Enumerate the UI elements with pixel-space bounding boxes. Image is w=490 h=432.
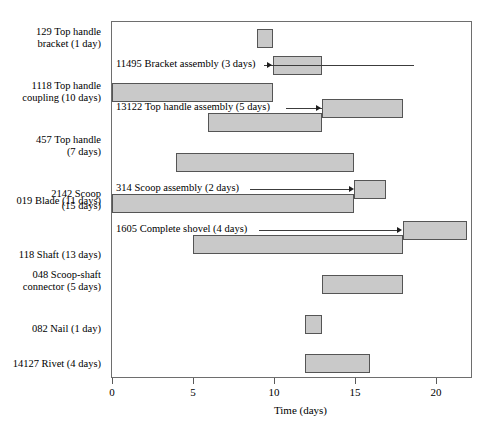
x-axis-title-text: Time (days) — [274, 404, 327, 416]
bar-1605-complete-shovel — [403, 221, 468, 240]
task-label-118: 118 Shaft (13 days) — [0, 249, 106, 261]
task-label-457: 457 Top handle (7 days) — [0, 134, 106, 159]
bar-118-shaft — [193, 235, 403, 254]
xtick-20 — [436, 378, 437, 384]
bar-13122-top-handle-assembly — [322, 99, 403, 118]
annotation-11495-text: 11495 Bracket assembly (3 days) — [116, 58, 256, 70]
xtick-10 — [274, 378, 275, 384]
bar-048-scoop-shaft-connector — [322, 275, 403, 294]
xtick-label-15: 15 — [340, 386, 370, 398]
annotation-11495-line — [264, 65, 414, 66]
annotation-13122-arrowhead — [316, 105, 321, 111]
xtick-15 — [355, 378, 356, 384]
bar-1118-top-handle-coupling — [112, 83, 273, 102]
annotation-314-arrowhead — [349, 186, 354, 192]
annotation-1605-arrowhead — [397, 227, 402, 233]
annotation-13122-text: 13122 Top handle assembly (5 days) — [116, 101, 270, 113]
xtick-5 — [193, 378, 194, 384]
bar-2142-scoop — [112, 194, 354, 213]
xtick-label-10: 10 — [259, 386, 289, 398]
gantt-chart: 129 Top handle bracket (1 day) 1118 Top … — [0, 0, 490, 432]
bar-314-scoop-assembly — [354, 180, 386, 199]
xtick-0 — [112, 378, 113, 384]
xtick-label-20: 20 — [421, 386, 451, 398]
bar-14127-rivet — [305, 354, 370, 373]
annotation-314-line — [250, 189, 352, 190]
annotation-314-text: 314 Scoop assembly (2 days) — [116, 182, 239, 194]
task-label-1118: 1118 Top handle coupling (10 days) — [0, 80, 106, 105]
task-label-129: 129 Top handle bracket (1 day) — [0, 26, 106, 51]
annotation-1605-line — [259, 230, 399, 231]
x-axis-title: Time (days) — [0, 404, 490, 416]
task-label-column: 129 Top handle bracket (1 day) 1118 Top … — [0, 0, 106, 432]
bar-457-top-handle — [208, 113, 321, 132]
task-label-2142: 2142 Scoop (15 days) — [0, 188, 106, 213]
xtick-label-0: 0 — [97, 386, 127, 398]
annotation-1605-text: 1605 Complete shovel (4 days) — [116, 223, 247, 235]
task-label-082: 082 Nail (1 day) — [0, 323, 106, 335]
bar-129-top-handle-bracket — [257, 29, 273, 48]
annotation-11495-arrowhead — [267, 62, 272, 68]
task-label-048: 048 Scoop-shaft connector (5 days) — [0, 269, 106, 294]
bar-082-nail — [305, 315, 321, 334]
bar-019-blade — [176, 153, 354, 172]
xtick-label-5: 5 — [178, 386, 208, 398]
task-label-14127: 14127 Rivet (4 days) — [0, 358, 106, 370]
